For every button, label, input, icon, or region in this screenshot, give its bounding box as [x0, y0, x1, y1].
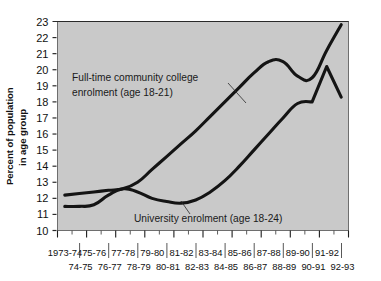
x-tick-label-top: 81-82 — [169, 247, 193, 258]
x-axis-labels-top: 1973-7475-7677-7879-8081-8283-8485-8687-… — [48, 247, 339, 258]
x-tick-label-top: 91-92 — [315, 247, 339, 258]
x-tick-label-bottom: 80-81 — [156, 261, 180, 272]
x-tick-label-bottom: 84-85 — [214, 261, 238, 272]
annotation-community-college-line1: Full-time community college — [72, 72, 199, 83]
x-tick-label-bottom: 92-93 — [331, 261, 355, 272]
enrolment-line-chart: Percent of population in age group 10111… — [0, 0, 381, 281]
x-tick-label-bottom: 82-83 — [185, 261, 209, 272]
y-tick-label: 15 — [36, 144, 48, 156]
y-tick-label: 12 — [36, 192, 48, 204]
y-axis-label-line2: in age group — [17, 109, 28, 166]
x-tick-label-bottom: 76-77 — [98, 261, 122, 272]
x-tick-label-bottom: 74-75 — [69, 261, 93, 272]
annotation-community-college-line2: enrolment (age 18-21) — [72, 87, 173, 98]
y-tick-label: 21 — [36, 48, 48, 60]
x-tick-label-top: 79-80 — [140, 247, 164, 258]
x-tick-label-top: 87-88 — [257, 247, 281, 258]
y-tick-label: 17 — [36, 112, 48, 124]
x-tick-label-top: 1973-74 — [48, 247, 82, 258]
x-axis-labels-bottom: 74-7576-7778-7980-8182-8384-8586-8788-89… — [69, 261, 355, 272]
x-tick-label-bottom: 88-89 — [272, 261, 296, 272]
y-tick-label: 13 — [36, 176, 48, 188]
x-axis-ticks — [58, 231, 349, 238]
x-tick-label-top: 85-86 — [228, 247, 252, 258]
x-tick-label-top: 77-78 — [111, 247, 135, 258]
x-tick-label-top: 75-76 — [82, 247, 106, 258]
y-tick-label: 19 — [36, 80, 48, 92]
x-tick-label-top: 83-84 — [199, 247, 223, 258]
x-tick-label-top: 89-90 — [286, 247, 310, 258]
y-tick-label: 11 — [37, 208, 48, 220]
y-tick-label: 14 — [36, 160, 48, 172]
y-tick-label: 20 — [36, 64, 48, 76]
annotation-university-label: University enrolment (age 18-24) — [134, 213, 282, 224]
y-tick-label: 22 — [36, 32, 48, 44]
y-axis-label: Percent of population in age group — [4, 87, 28, 185]
y-tick-label: 10 — [36, 225, 48, 237]
x-tick-label-bottom: 90-91 — [301, 261, 325, 272]
x-tick-label-bottom: 78-79 — [127, 261, 151, 272]
x-tick-label-bottom: 86-87 — [243, 261, 267, 272]
y-axis-label-line1: Percent of population — [4, 87, 15, 185]
chart-container: Percent of population in age group 10111… — [0, 0, 381, 281]
y-tick-label: 16 — [36, 128, 48, 140]
y-tick-label: 23 — [36, 16, 48, 28]
y-tick-label: 18 — [36, 96, 48, 108]
